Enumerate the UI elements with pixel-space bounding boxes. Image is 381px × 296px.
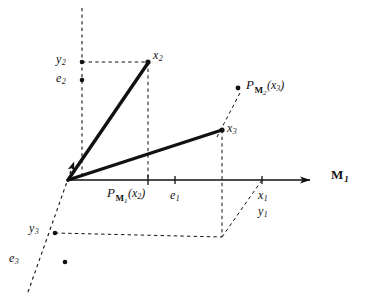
guide-y3-to-base — [55, 233, 222, 237]
dot-y3 — [53, 231, 58, 236]
dot-x3 — [219, 127, 224, 132]
dot-x2 — [145, 59, 150, 64]
label-x3: x3 — [227, 122, 237, 136]
projection-diagram: y2 e2 x2 x3 y3 e3 e1 x1 y1 PM1(x2) PM2(x… — [0, 0, 381, 296]
label-projection-m2-x3: PM2(x3) — [246, 78, 284, 97]
label-e2: e2 — [56, 72, 66, 86]
vectors — [68, 63, 222, 180]
label-y2: y2 — [56, 53, 66, 67]
guide-base-to-x1 — [222, 180, 262, 237]
x3-vector — [68, 130, 222, 180]
label-y3: y3 — [29, 222, 39, 236]
label-x1: x1 — [258, 189, 268, 203]
diagram-canvas — [0, 0, 381, 296]
label-e3: e3 — [9, 252, 19, 266]
dot-proj-m2-x3 — [236, 86, 241, 91]
label-y1: y1 — [258, 205, 268, 219]
label-e1: e1 — [170, 189, 180, 203]
label-projection-m1-x2: PM1(x2) — [107, 186, 145, 205]
axis-label-m1: M1 — [331, 168, 349, 184]
dot-e2 — [80, 78, 85, 83]
label-x2: x2 — [153, 49, 163, 63]
dot-e3 — [63, 260, 68, 265]
dot-y2 — [80, 60, 85, 65]
